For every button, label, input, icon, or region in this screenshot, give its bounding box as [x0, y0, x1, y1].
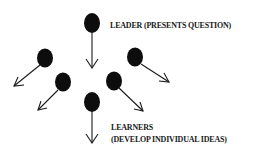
learners-label-line2: (DEVELOP INDIVIDUAL IDEAS) — [111, 135, 227, 144]
learners-label-line1: LEARNERS — [111, 123, 154, 132]
leader-label: LEADER (PRESENTS QUESTION) — [110, 21, 232, 30]
diagram-canvas: LEADER (PRESENTS QUESTION) — [0, 0, 259, 150]
learner-node-group — [106, 72, 143, 112]
learner-node — [127, 48, 143, 67]
learner-node-group — [14, 49, 53, 87]
learner-arrow — [14, 65, 40, 86]
learner-arrow — [119, 88, 143, 111]
learner-node-group — [84, 92, 100, 143]
learner-node — [84, 92, 100, 112]
learner-arrow — [38, 90, 58, 110]
learner-node — [55, 73, 71, 92]
leader-node — [84, 13, 100, 33]
learner-arrow — [141, 64, 169, 82]
learner-node-group — [127, 48, 169, 83]
leader-arrow — [86, 32, 98, 68]
learner-arrow — [86, 111, 98, 143]
learner-node-group — [38, 73, 71, 111]
learner-node — [106, 72, 122, 91]
leader-node-group — [84, 13, 100, 68]
learner-node — [37, 49, 53, 68]
